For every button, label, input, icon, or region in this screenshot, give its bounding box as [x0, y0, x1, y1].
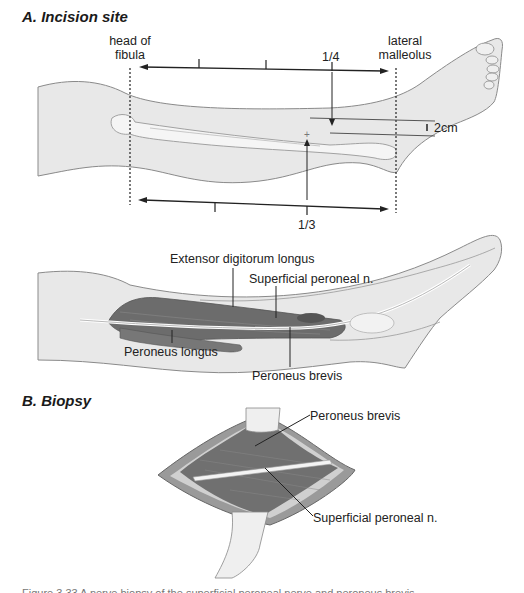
label-peroneus-brevis-b: Peroneus brevis: [310, 409, 400, 423]
label-superficial-peroneal-nerve-b: Superficial peroneal n.: [313, 511, 437, 525]
figure-caption: Figure 3.33 A nerve biopsy of the superf…: [22, 585, 415, 593]
biopsy-diagram: [0, 0, 524, 593]
